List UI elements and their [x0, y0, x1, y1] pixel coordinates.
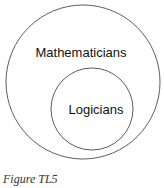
label-logicians: Logicians: [69, 102, 124, 117]
euler-diagram: Mathematicians Logicians: [0, 0, 164, 188]
outer-set-mathematicians: [6, 5, 160, 159]
label-mathematicians: Mathematicians: [35, 45, 127, 60]
figure-caption: Figure TL5: [3, 172, 58, 187]
